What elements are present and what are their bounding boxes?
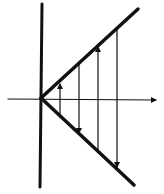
lower-boundary-line [41, 98, 134, 185]
boundary-lines [41, 9, 138, 185]
oscillation-arrows [60, 28, 117, 167]
upper-boundary-line [41, 9, 138, 98]
axes [8, 4, 156, 187]
horizontal-axis [8, 99, 156, 100]
oscillation-diagram [0, 0, 164, 194]
